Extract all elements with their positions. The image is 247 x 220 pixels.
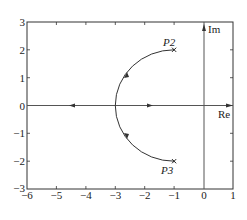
y-tick-label: 1 xyxy=(20,72,26,84)
imag-axis-arrow-icon xyxy=(202,24,206,31)
real-axis-label: Re xyxy=(218,108,230,120)
x-tick-label: −3 xyxy=(109,189,121,201)
x-tick-label: −5 xyxy=(51,189,63,201)
x-tick-label: 1 xyxy=(230,189,236,201)
y-tick-label: 2 xyxy=(20,44,26,56)
x-tick-label: −1 xyxy=(168,189,180,201)
x-tick-label: −4 xyxy=(80,189,92,201)
arrow-left-icon xyxy=(69,104,75,108)
y-tick-label: −3 xyxy=(13,182,25,194)
y-tick-label: −2 xyxy=(13,155,25,167)
y-tick-labels: 3 2 1 0 −1 −2 −3 xyxy=(13,16,25,194)
arrow-right-icon xyxy=(147,104,153,108)
x-tick-label: −2 xyxy=(139,189,151,201)
imag-axis-label: Im xyxy=(208,23,221,35)
y-tick-label: −1 xyxy=(13,127,25,139)
x-tick-labels: −6 −5 −4 −3 −2 −1 0 1 xyxy=(21,189,236,201)
y-tick-label: 3 xyxy=(20,16,26,28)
y-tick-label: 0 xyxy=(20,100,26,112)
x-tick-label: 0 xyxy=(201,189,207,201)
root-locus-chart: −6 −5 −4 −3 −2 −1 0 1 3 2 1 0 −1 −2 −3 I… xyxy=(0,0,247,220)
pole-p3-label: P3 xyxy=(160,164,174,176)
real-axis-arrow-icon xyxy=(226,104,233,108)
pole-p2-label: P2 xyxy=(162,36,176,48)
